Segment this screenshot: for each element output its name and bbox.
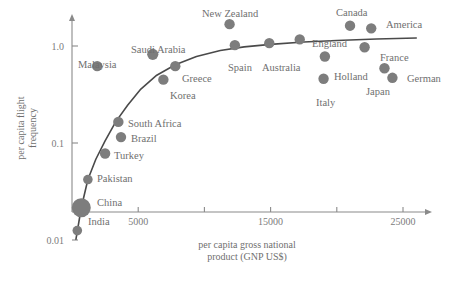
data-point-label: Holland: [334, 71, 369, 82]
x-axis-arrow: [425, 209, 432, 215]
data-point-label: India: [88, 216, 110, 227]
data-point: [224, 19, 234, 29]
data-point-label: Japan: [366, 86, 391, 97]
y-axis-title-line1: per capita flight: [15, 96, 26, 160]
x-axis-tick-label: 25000: [391, 216, 416, 227]
data-point: [359, 42, 369, 52]
data-point: [320, 51, 330, 61]
data-point: [100, 148, 110, 158]
data-point-label: America: [386, 19, 422, 30]
data-point-label: England: [312, 38, 348, 49]
data-point-label: Malaysia: [78, 59, 117, 70]
data-point: [230, 40, 240, 50]
data-point-label: France: [380, 52, 409, 63]
data-point: [73, 226, 83, 236]
x-axis-title-line1: per capita gross national: [198, 239, 296, 250]
x-axis-title-line2: product (GNP US$): [207, 251, 287, 263]
y-axis-title-line2: frequency: [27, 108, 38, 148]
data-point: [318, 74, 328, 84]
y-axis-tick-label: 1.0: [52, 41, 65, 52]
data-point-label: Saudi Arabia: [131, 44, 186, 55]
data-point: [264, 38, 274, 48]
x-axis-tick-label: 5000: [128, 216, 148, 227]
data-point-label: Pakistan: [97, 173, 133, 184]
chart-figure: 500015000250000.010.11.0 IndiaChinaPakis…: [0, 0, 454, 287]
data-point: [345, 20, 355, 30]
data-point: [83, 175, 93, 185]
data-point-label: German: [407, 73, 442, 84]
data-point-label: Italy: [316, 97, 336, 108]
data-point: [387, 73, 397, 83]
data-point: [158, 74, 168, 84]
data-point-label: Greece: [182, 73, 212, 84]
data-point-label: Korea: [170, 90, 196, 101]
data-point-label: Spain: [228, 62, 253, 73]
point-labels-layer: IndiaChinaPakistanTurkeyBrazilSouth Afri…: [78, 7, 442, 227]
data-point-label: China: [97, 197, 122, 208]
data-point: [170, 61, 180, 71]
x-axis-tick-label: 15000: [258, 216, 283, 227]
data-point: [116, 132, 126, 142]
data-point: [113, 117, 123, 127]
data-point: [366, 23, 376, 33]
data-point: [72, 198, 91, 217]
axes-layer: 500015000250000.010.11.0: [47, 14, 433, 246]
data-point-label: New Zealand: [202, 8, 259, 19]
data-point-label: Brazil: [131, 133, 157, 144]
scatter-plot-svg: 500015000250000.010.11.0 IndiaChinaPakis…: [0, 0, 454, 287]
y-axis-tick-label: 0.1: [52, 138, 65, 149]
y-axis-arrow: [69, 14, 75, 21]
data-point-label: Canada: [336, 7, 368, 18]
data-point: [295, 34, 305, 44]
data-point-label: Australia: [262, 62, 301, 73]
data-point-label: South Africa: [128, 118, 182, 129]
y-axis-tick-label: 0.01: [47, 235, 65, 246]
data-point: [379, 63, 389, 73]
data-point-label: Turkey: [114, 150, 145, 161]
